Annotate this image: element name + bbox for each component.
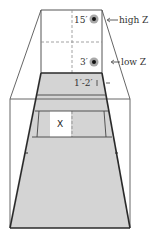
target-center-icon [92, 60, 96, 64]
position-marker: X [57, 119, 63, 129]
target-center-icon [92, 17, 96, 21]
high-target-height: 15′ [74, 15, 88, 25]
low-target-label: low Z [121, 57, 146, 67]
low-target-height: 3′ [80, 57, 88, 67]
high-target: 15′ high Z [74, 15, 148, 26]
high-target-label: high Z [119, 15, 148, 25]
court-floor [10, 73, 130, 228]
floor-marker-label: 1′-2′ [74, 78, 93, 88]
court-diagram: 1′-2′ X 15′ high Z 3′ low Z [0, 0, 165, 232]
low-target: 3′ low Z [80, 57, 146, 67]
